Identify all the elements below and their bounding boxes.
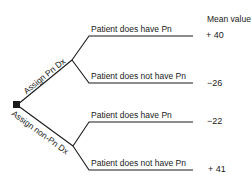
outcome-line-nonpn-has xyxy=(73,122,193,146)
outcome-label: Patient does not have Pn xyxy=(91,72,186,81)
decision-square-icon xyxy=(13,101,20,108)
mean-value: −26 xyxy=(207,79,222,88)
outcome-line-pn-has xyxy=(72,36,193,60)
mean-value: −22 xyxy=(207,117,222,126)
outcome-label: Patient does have Pn xyxy=(91,25,172,34)
outcome-label: Patient does not have Pn xyxy=(91,159,186,168)
mean-value: + 40 xyxy=(206,31,224,40)
mean-value-header: Mean value xyxy=(207,15,251,24)
mean-value: + 41 xyxy=(208,165,226,174)
outcome-label: Patient does have Pn xyxy=(91,111,172,120)
